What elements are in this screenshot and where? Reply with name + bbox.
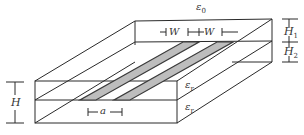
h-label: H: [11, 97, 21, 108]
epsilon-0-label: ε0: [196, 2, 206, 15]
epsilon-r-top-label: εr: [185, 80, 194, 93]
back-mid-line: [135, 41, 272, 42]
h1-label: H1: [284, 26, 298, 40]
microstrip-diagram: [0, 0, 304, 135]
w-label-2: W: [204, 27, 214, 37]
w-label-1: W: [169, 27, 179, 37]
h2-label: H2: [284, 46, 298, 60]
epsilon-r-bottom-label: εr: [185, 102, 194, 115]
a-label: a: [100, 106, 106, 116]
back-top-edge: [135, 19, 272, 21]
